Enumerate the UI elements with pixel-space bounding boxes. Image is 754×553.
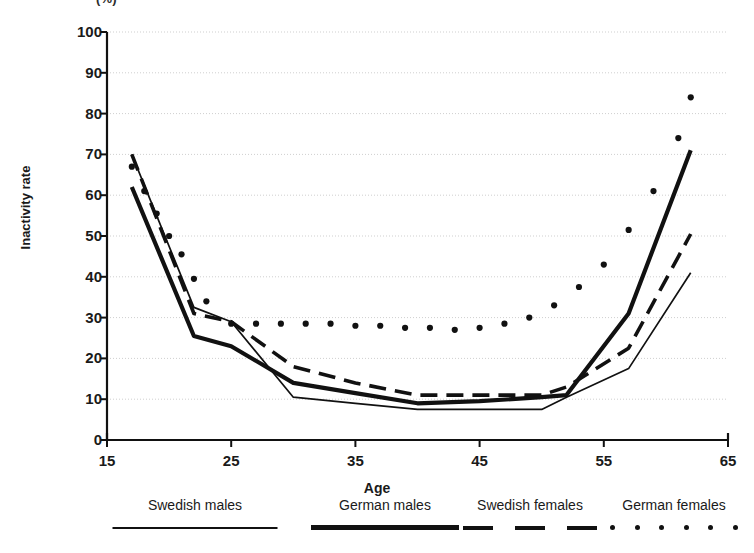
legend-dot [708, 525, 713, 530]
plot-area [0, 0, 754, 553]
data-point [601, 261, 607, 267]
data-point [526, 315, 532, 321]
legend-label: Swedish females [455, 498, 605, 513]
legend-dot [684, 525, 689, 530]
legend-item-swedish-males[interactable]: Swedish males [105, 498, 285, 536]
data-point [141, 188, 147, 194]
data-point [675, 135, 681, 141]
legend-line-dotted [610, 525, 738, 531]
data-point [166, 233, 172, 239]
data-series-layer [129, 94, 694, 409]
legend-dash [567, 526, 597, 530]
data-point [303, 321, 309, 327]
gridlines [107, 32, 728, 399]
chart-legend: Swedish malesGerman malesSwedish females… [0, 498, 754, 553]
legend-swatch-dotted [600, 522, 748, 536]
inactivity-rate-chart-figure: (%) Inactivity rate Age 1009080706050403… [0, 0, 754, 553]
series-swedish-males [132, 154, 691, 409]
data-point [427, 325, 433, 331]
data-point [278, 321, 284, 327]
axis-tick-marks [101, 32, 728, 447]
legend-swatch-thin-solid [105, 522, 285, 536]
data-point [626, 227, 632, 233]
data-point [452, 327, 458, 333]
legend-item-swedish-females[interactable]: Swedish females [455, 498, 605, 536]
legend-swatch-dashed [455, 522, 605, 536]
data-point [253, 321, 259, 327]
data-point [178, 251, 184, 257]
data-point [576, 284, 582, 290]
data-point [688, 94, 694, 100]
legend-item-german-females[interactable]: German females [600, 498, 748, 536]
data-point [551, 302, 557, 308]
data-point [501, 321, 507, 327]
legend-dot [659, 525, 664, 530]
legend-dash [515, 526, 545, 530]
legend-label: Swedish males [105, 498, 285, 513]
legend-label: German females [600, 498, 748, 513]
series-german-females [129, 94, 694, 333]
data-point [203, 298, 209, 304]
data-point [129, 164, 135, 170]
legend-line-thin [113, 527, 278, 529]
data-point [402, 325, 408, 331]
data-point [327, 321, 333, 327]
series-swedish-females [132, 154, 691, 395]
legend-line-thick [311, 525, 459, 530]
legend-line-dashed [463, 526, 597, 530]
data-point [650, 188, 656, 194]
legend-dot [610, 525, 615, 530]
data-point [191, 276, 197, 282]
data-point [477, 325, 483, 331]
legend-dot [733, 525, 738, 530]
data-point [228, 321, 234, 327]
legend-dash [463, 526, 493, 530]
data-point [154, 210, 160, 216]
data-point [377, 323, 383, 329]
data-point [352, 323, 358, 329]
legend-dot [635, 525, 640, 530]
